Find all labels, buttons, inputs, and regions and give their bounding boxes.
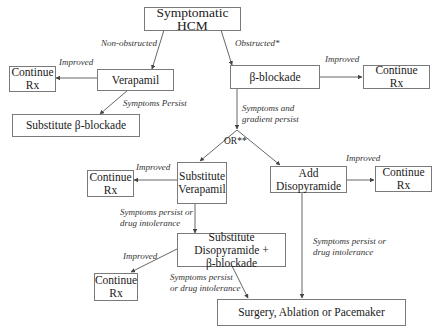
node-label: Continue <box>375 64 417 77</box>
node-label: Rx <box>397 179 410 192</box>
node-label: Disopyramide <box>276 180 341 193</box>
node-substitute-verapamil: Substitute Verapamil <box>177 162 227 204</box>
node-label: Continue <box>89 171 131 184</box>
node-label: Substitute Disopyramide + <box>178 231 285 257</box>
node-label: Verapamil <box>178 183 225 196</box>
node-continue-rx-4: Continue Rx <box>375 166 432 192</box>
node-label: Substitute β-blockade <box>26 119 126 132</box>
node-continue-rx-3: Continue Rx <box>87 170 134 197</box>
node-substitute-disopyramide-beta: Substitute Disopyramide + β-blockade <box>177 233 286 267</box>
edge-start-beta <box>221 30 232 65</box>
label-line: Symptoms and <box>242 103 299 114</box>
node-label: Substitute <box>179 170 225 183</box>
node-verapamil: Verapamil <box>97 69 174 91</box>
label-line: Symptoms persist or <box>120 207 193 218</box>
label-symptoms-gradient: Symptoms and gradient persist <box>242 103 299 125</box>
node-label: β-blockade <box>249 71 300 84</box>
node-label: Add <box>299 167 319 180</box>
node-surgery-ablation-pacemaker: Surgery, Ablation or Pacemaker <box>217 299 406 326</box>
node-label: Continue <box>382 166 424 179</box>
node-continue-rx-2: Continue Rx <box>363 65 430 89</box>
node-label: Rx <box>390 77 403 90</box>
label-obstructed: Obstructed* <box>235 38 280 49</box>
node-label: Rx <box>26 79 39 92</box>
node-label: Rx <box>109 287 122 300</box>
node-label: Surgery, Ablation or Pacemaker <box>238 306 385 319</box>
label-improved-3: Improved <box>136 162 170 173</box>
label-persist-intolerance-1: Symptoms persist or drug intolerance <box>120 207 193 229</box>
label-line: drug intolerance <box>120 218 193 229</box>
label-or: OR** <box>224 136 247 146</box>
node-label: Verapamil <box>112 74 159 87</box>
node-label: Symptomatic HCM <box>145 6 240 32</box>
label-improved-2: Improved <box>325 54 359 65</box>
label-line: or drug intolerance <box>170 283 241 294</box>
label-persist-intolerance-3: Symptoms persist or drug intolerance <box>170 272 241 294</box>
label-symptoms-persist: Symptoms Persist <box>123 98 187 109</box>
node-continue-rx-1: Continue Rx <box>9 66 56 92</box>
label-improved-1: Improved <box>59 57 93 68</box>
node-beta-blockade: β-blockade <box>230 65 320 89</box>
node-symptomatic-hcm: Symptomatic HCM <box>144 7 241 31</box>
node-continue-rx-5: Continue Rx <box>94 273 138 301</box>
label-improved-5: Improved <box>123 251 157 262</box>
node-label: β-blockade <box>206 257 257 270</box>
label-line: gradient persist <box>242 114 299 125</box>
node-label: Continue <box>11 66 53 79</box>
edge-start-verapamil <box>152 30 164 69</box>
node-label: Continue <box>95 274 137 287</box>
label-line: drug intolerance <box>313 247 386 258</box>
label-line: Symptoms persist or <box>313 236 386 247</box>
node-substitute-beta-blockade: Substitute β-blockade <box>12 114 140 137</box>
label-persist-intolerance-2: Symptoms persist or drug intolerance <box>313 236 386 258</box>
node-label: Rx <box>104 184 117 197</box>
node-add-disopyramide: Add Disopyramide <box>270 166 347 193</box>
label-line: Symptoms persist <box>170 272 241 283</box>
label-improved-4: Improved <box>346 153 380 164</box>
label-non-obstructed: Non-obstructed <box>101 38 157 49</box>
